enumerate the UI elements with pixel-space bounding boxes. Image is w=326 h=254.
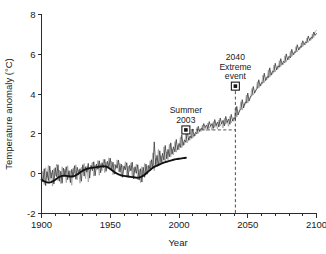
y-axis-title: Temperature anomaly (°C) (3, 58, 14, 170)
y-tick-label--2: -2 (27, 208, 35, 219)
y-tick-label-0: 0 (30, 168, 35, 179)
y-tick-label-8: 8 (30, 9, 35, 20)
y-tick-label-2: 2 (30, 128, 35, 139)
annotation-label-extreme-2040-line-3: event (225, 71, 247, 81)
x-tick-label-1900: 1900 (31, 219, 52, 230)
x-tick-label-2050: 2050 (237, 219, 258, 230)
marker-core-summer-2003 (184, 128, 188, 132)
x-tick-label-2100: 2100 (306, 219, 326, 230)
chart-background (0, 0, 326, 254)
annotation-label-extreme-2040-line-2: Extreme (219, 62, 251, 72)
x-tick-label-1950: 1950 (100, 219, 121, 230)
temperature-anomaly-line-chart: Summer20032040Extremeevent -202468190019… (0, 0, 326, 254)
annotation-label-summer-2003-line-2: 2003 (176, 115, 195, 125)
y-tick-label-6: 6 (30, 49, 35, 60)
y-tick-label-4: 4 (30, 89, 35, 100)
chart-figure: Summer20032040Extremeevent -202468190019… (0, 0, 326, 254)
annotation-label-extreme-2040-line-1: 2040 (226, 52, 245, 62)
marker-core-extreme-2040 (234, 84, 238, 88)
annotation-label-summer-2003-line-1: Summer (170, 105, 203, 115)
x-tick-label-2000: 2000 (168, 219, 189, 230)
x-axis-title: Year (168, 237, 187, 248)
